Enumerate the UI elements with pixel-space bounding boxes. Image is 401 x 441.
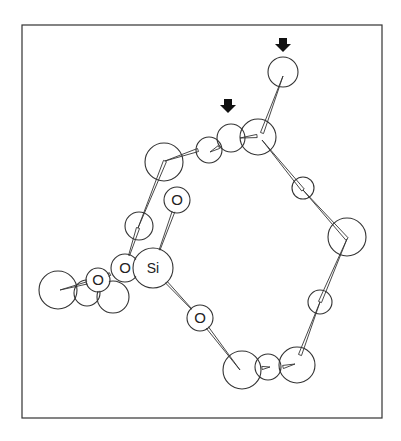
atom-si: Si — [133, 248, 173, 288]
bond — [262, 140, 304, 191]
atom — [39, 271, 77, 309]
atom-o: O — [86, 268, 110, 292]
atom-label: O — [194, 309, 206, 326]
down-arrow-icon — [220, 99, 236, 113]
bond — [319, 239, 347, 303]
atom-circle — [196, 137, 222, 163]
arrow-layer — [220, 38, 291, 113]
bond — [210, 146, 220, 152]
diagram-frame — [22, 25, 382, 418]
atom-label: O — [119, 259, 131, 276]
atom-circle — [268, 57, 298, 87]
atom-label: O — [92, 271, 104, 288]
down-arrow-icon — [275, 38, 291, 52]
atom-label: Si — [147, 260, 159, 276]
bond — [262, 366, 270, 369]
molecule-diagram: OOOSiO — [0, 0, 401, 441]
atom-circle — [39, 271, 77, 309]
bond — [303, 190, 348, 240]
atom-o: O — [187, 305, 213, 331]
atom-layer: OOOSiO — [39, 57, 366, 389]
atom-label: O — [171, 191, 183, 208]
bond — [283, 364, 295, 369]
atom — [268, 57, 298, 87]
atom-o: O — [164, 187, 190, 213]
bond — [240, 134, 257, 138]
atom — [196, 137, 222, 163]
bond — [138, 160, 166, 228]
